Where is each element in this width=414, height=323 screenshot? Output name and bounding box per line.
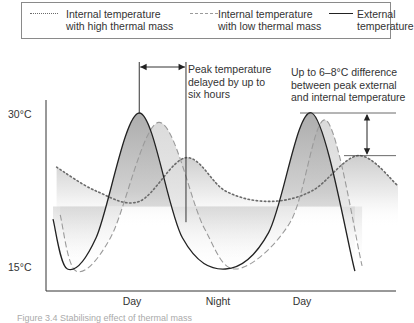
y-tick-label-15: 15°C: [8, 261, 31, 273]
arrow-head-down-icon: [364, 148, 370, 154]
annotation-temperature-difference: Up to 6–8°C difference between peak exte…: [291, 66, 405, 104]
y-tick-label-30: 30°C: [8, 108, 31, 120]
annotation-peak-delay-line3: six hours: [188, 88, 271, 101]
x-tick-label-day-1: Day: [123, 295, 142, 307]
figure-caption: Figure 3.4 Stabilising effect of thermal…: [17, 313, 192, 323]
annotation-peak-delay: Peak temperature delayed by up to six ho…: [188, 63, 271, 101]
annotation-difference-line1: Up to 6–8°C difference: [291, 66, 405, 79]
arrow-head-up-icon: [364, 114, 370, 120]
x-tick-label-night: Night: [206, 295, 231, 307]
annotation-peak-delay-line2: delayed by up to: [188, 76, 271, 89]
arrow-head-left-icon: [140, 64, 146, 70]
annotation-peak-delay-line1: Peak temperature: [188, 63, 271, 76]
x-tick-label-day-2: Day: [293, 295, 312, 307]
arrow-head-right-icon: [179, 64, 185, 70]
annotation-difference-line2: between peak external: [291, 79, 405, 92]
annotation-difference-line3: and internal temperature: [291, 91, 405, 104]
